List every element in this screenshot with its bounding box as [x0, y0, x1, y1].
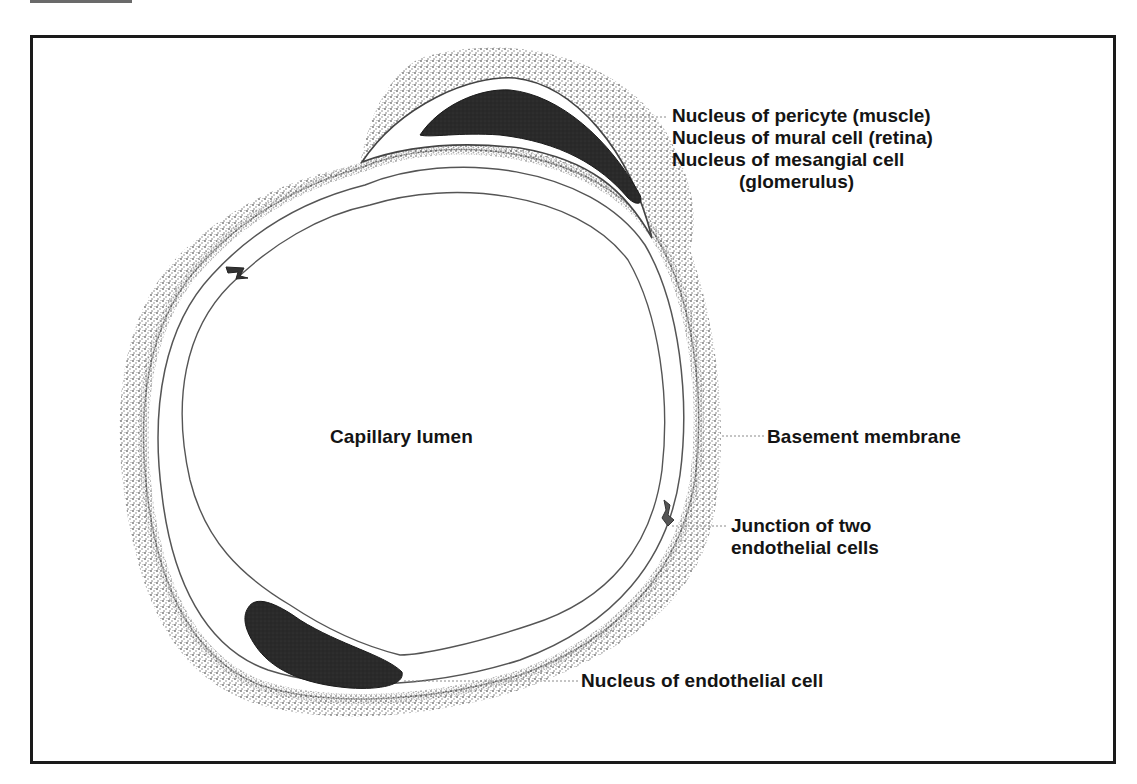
pericyte-label-line-1: Nucleus of pericyte (muscle) — [672, 105, 933, 127]
pericyte-label: Nucleus of pericyte (muscle) Nucleus of … — [672, 105, 933, 193]
junction-label-line-1: Junction of two — [731, 515, 879, 537]
pericyte-label-line-2: Nucleus of mural cell (retina) — [672, 127, 933, 149]
basement-membrane-label: Basement membrane — [767, 426, 961, 448]
capillary-diagram — [0, 0, 1137, 784]
pericyte-label-line-4: (glomerulus) — [672, 171, 933, 193]
junction-label: Junction of two endothelial cells — [731, 515, 879, 559]
junction-label-line-2: endothelial cells — [731, 537, 879, 559]
pericyte-label-line-3: Nucleus of mesangial cell — [672, 149, 933, 171]
endothelial-nucleus-label: Nucleus of endothelial cell — [581, 670, 823, 692]
capillary-lumen-label: Capillary lumen — [330, 426, 473, 448]
